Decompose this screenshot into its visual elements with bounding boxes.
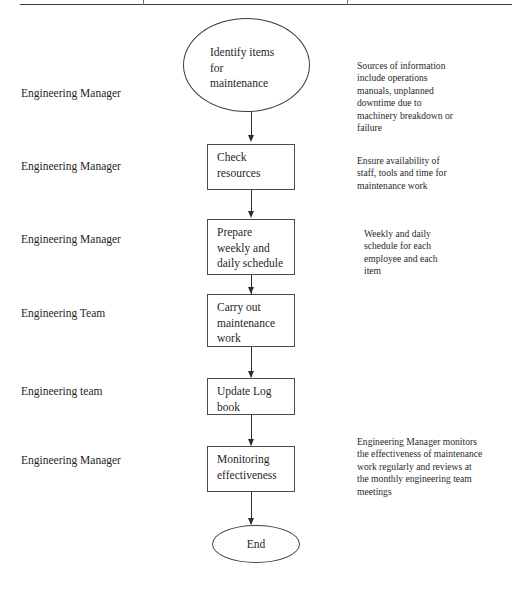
flowchart-canvas: Engineering Manager Engineering Manager … bbox=[0, 0, 515, 590]
note-schedule-line-4: item bbox=[364, 265, 515, 277]
note-schedule-line-3: employee and each bbox=[364, 253, 515, 265]
connector-update-log-to-monitoring-arrowhead bbox=[248, 439, 254, 446]
connector-check-to-prepare-arrowhead bbox=[248, 211, 254, 218]
role-label-update-log: Engineering team bbox=[21, 384, 102, 398]
note-monitoring-line-4: the monthly engineering team bbox=[357, 473, 515, 485]
note-sources-of-information: Sources of information include operation… bbox=[357, 60, 509, 134]
role-label-identify: Engineering Manager bbox=[21, 86, 121, 100]
node-carry-out-maintenance-line-3: work bbox=[217, 331, 294, 347]
note-weekly-daily-schedule: Weekly and daily schedule for each emplo… bbox=[364, 228, 515, 278]
node-carry-out-maintenance[interactable]: Carry out maintenance work bbox=[207, 294, 295, 347]
note-sources-line-3: manuals, unplanned bbox=[357, 85, 509, 97]
node-identify-items-line-3: maintenance bbox=[210, 76, 302, 92]
node-check-resources-line-2: resources bbox=[217, 166, 294, 182]
role-label-check: Engineering Manager bbox=[21, 159, 121, 173]
note-availability-line-1: Ensure availability of bbox=[357, 155, 509, 167]
note-sources-line-1: Sources of information bbox=[357, 60, 509, 72]
node-prepare-schedule[interactable]: Prepare weekly and daily schedule bbox=[207, 219, 295, 275]
note-monitoring-line-3: work regularly and reviews at bbox=[357, 461, 515, 473]
note-monitoring-line-2: the effectiveness of maintenance bbox=[357, 448, 515, 460]
connector-identify-to-check-arrowhead bbox=[248, 135, 254, 142]
note-sources-line-4: downtime due to bbox=[357, 97, 509, 109]
node-update-log-book-line-1: Update Log bbox=[217, 384, 294, 400]
table-column-divider-1 bbox=[143, 0, 144, 5]
note-sources-line-6: failure bbox=[357, 122, 509, 134]
node-end[interactable]: End bbox=[212, 525, 300, 563]
note-sources-line-2: include operations bbox=[357, 72, 509, 84]
note-availability-line-3: maintenance work bbox=[357, 180, 509, 192]
node-identify-items-line-1: Identify items bbox=[210, 45, 302, 61]
role-label-carry-out: Engineering Team bbox=[21, 306, 105, 320]
note-monitoring-line-1: Engineering Manager monitors bbox=[357, 436, 515, 448]
connector-prepare-to-carry-out-arrowhead bbox=[248, 287, 254, 294]
connector-check-to-prepare bbox=[251, 190, 252, 213]
note-schedule-line-1: Weekly and daily bbox=[364, 228, 515, 240]
node-prepare-schedule-line-1: Prepare bbox=[217, 225, 294, 241]
node-check-resources[interactable]: Check resources bbox=[207, 144, 295, 190]
role-label-prepare: Engineering Manager bbox=[21, 232, 121, 246]
table-column-divider-2 bbox=[347, 0, 348, 5]
node-monitoring-effectiveness-line-1: Monitoring bbox=[217, 452, 294, 468]
node-prepare-schedule-line-2: weekly and bbox=[217, 241, 294, 257]
node-monitoring-effectiveness-line-2: effectiveness bbox=[217, 468, 294, 484]
node-end-label: End bbox=[213, 537, 299, 553]
role-label-monitoring: Engineering Manager bbox=[21, 453, 121, 467]
node-identify-items-line-2: for bbox=[210, 61, 302, 77]
page-top-rule bbox=[20, 4, 512, 5]
note-availability-line-2: staff, tools and time for bbox=[357, 167, 509, 179]
node-monitoring-effectiveness[interactable]: Monitoring effectiveness bbox=[207, 446, 295, 492]
connector-carry-out-to-update-log-arrowhead bbox=[248, 371, 254, 378]
node-check-resources-line-1: Check bbox=[217, 150, 294, 166]
node-prepare-schedule-line-3: daily schedule bbox=[217, 256, 294, 272]
node-identify-items[interactable]: Identify items for maintenance bbox=[183, 18, 310, 112]
note-schedule-line-2: schedule for each bbox=[364, 240, 515, 252]
connector-monitoring-to-end-arrowhead bbox=[248, 518, 254, 525]
node-update-log-book[interactable]: Update Log book bbox=[207, 378, 295, 415]
note-ensure-availability: Ensure availability of staff, tools and … bbox=[357, 155, 509, 192]
note-monitoring-line-5: meetings bbox=[357, 486, 515, 498]
node-update-log-book-line-2: book bbox=[217, 400, 294, 416]
node-carry-out-maintenance-line-1: Carry out bbox=[217, 300, 294, 316]
connector-identify-to-check bbox=[251, 112, 252, 137]
note-monitoring-effectiveness: Engineering Manager monitors the effecti… bbox=[357, 436, 515, 498]
node-carry-out-maintenance-line-2: maintenance bbox=[217, 316, 294, 332]
note-sources-line-5: machinery breakdown or bbox=[357, 110, 509, 122]
